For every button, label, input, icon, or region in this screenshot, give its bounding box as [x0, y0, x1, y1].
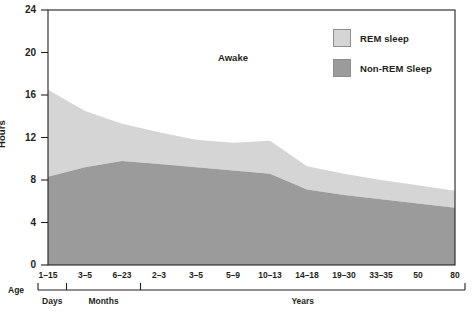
x-axis-tick-label: 1–15	[39, 271, 58, 280]
legend-label-rem-sleep: REM sleep	[360, 33, 409, 44]
sleep-hours-area-chart: Hours 04812162024 1–153–56–232–33–55–910…	[0, 0, 472, 321]
y-axis-tick-label: 12	[10, 133, 36, 143]
x-axis-tick-label: 5–9	[226, 271, 240, 280]
x-axis-tick-label: 19–30	[332, 271, 356, 280]
x-axis-group-label: Years	[291, 296, 314, 306]
legend-swatch-non-rem-sleep	[333, 59, 351, 77]
x-axis-title: Age	[8, 285, 24, 295]
x-axis-tick-label: 3–5	[78, 271, 92, 280]
y-axis-tick-label: 4	[10, 218, 36, 228]
legend-swatch-rem-sleep	[333, 29, 351, 47]
x-axis-tick-label: 6–23	[113, 271, 132, 280]
y-axis-tick-label: 0	[10, 260, 36, 270]
x-axis-tick-label: 33–35	[369, 271, 393, 280]
y-axis-tick-label: 16	[10, 90, 36, 100]
y-axis-tick-label: 8	[10, 175, 36, 185]
awake-annotation: Awake	[218, 52, 248, 63]
legend-label-non-rem-sleep: Non-REM Sleep	[360, 63, 432, 74]
x-axis-tick-label: 3–5	[189, 271, 203, 280]
x-axis-group-bracket	[38, 283, 465, 290]
x-axis-group-label: Days	[42, 296, 62, 306]
y-axis-tick-label: 20	[10, 48, 36, 58]
legend-item-non-rem-sleep: Non-REM Sleep	[333, 59, 432, 77]
x-axis-group-label: Months	[88, 296, 118, 306]
y-axis-ticks	[41, 10, 48, 265]
legend-item-rem-sleep: REM sleep	[333, 29, 409, 47]
y-axis-tick-label: 24	[10, 5, 36, 15]
x-axis-tick-label: 14–18	[295, 271, 319, 280]
x-axis-tick-label: 50	[413, 271, 422, 280]
x-axis-tick-label: 10–13	[258, 271, 282, 280]
x-axis-tick-label: 2–3	[152, 271, 166, 280]
x-axis-tick-label: 80	[450, 271, 459, 280]
